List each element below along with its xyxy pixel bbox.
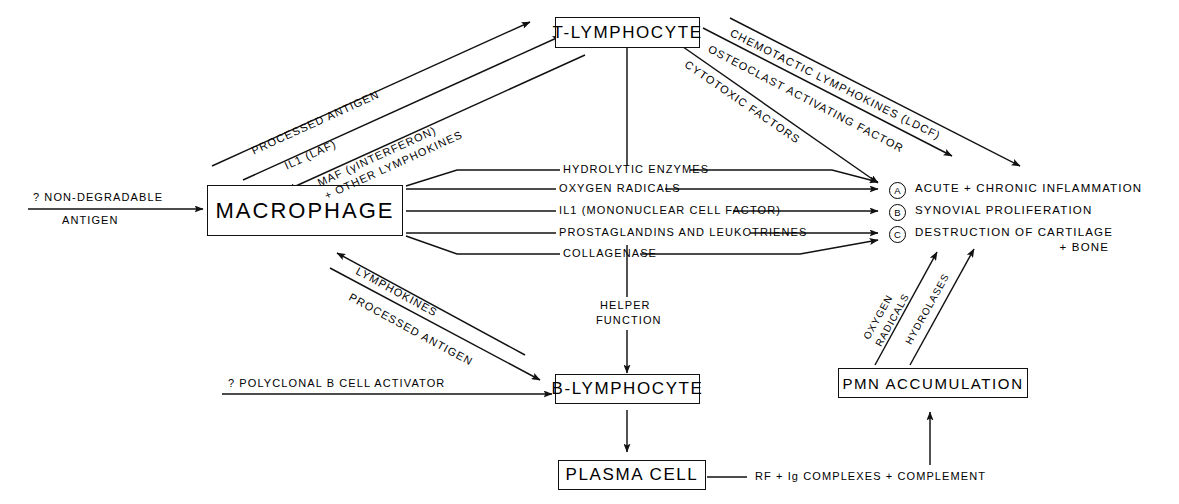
arrow-collagenase-right	[640, 240, 878, 254]
node-t-lymphocyte[interactable]: T-LYMPHOCYTE	[555, 17, 700, 48]
input-non-degradable-antigen-line2: ANTIGEN	[62, 214, 119, 226]
node-macrophage-label: MACROPHAGE	[216, 198, 395, 224]
node-plasma-cell[interactable]: PLASMA CELL	[558, 460, 706, 490]
outcome-c[interactable]: C DESTRUCTION OF CARTILAGE + BONE	[889, 225, 1113, 255]
label-il1-mononuclear-cell-factor: IL1 (MONONUCLEAR CELL FACTOR)	[559, 204, 781, 216]
node-t-lymphocyte-label: T-LYMPHOCYTE	[552, 23, 702, 43]
arrow-osteoclast-activating-factor	[703, 28, 952, 156]
input-non-degradable-antigen-line1: ? NON-DEGRADABLE	[33, 191, 163, 203]
outcome-c-label: DESTRUCTION OF CARTILAGE + BONE	[915, 225, 1113, 255]
outcome-c-label-main: DESTRUCTION OF CARTILAGE	[915, 226, 1113, 238]
arrow-hydrolases-pmn	[910, 249, 974, 365]
immunopathogenesis-diagram: MACROPHAGE T-LYMPHOCYTE B-LYMPHOCYTE PLA…	[0, 0, 1179, 504]
node-plasma-cell-label: PLASMA CELL	[566, 465, 699, 485]
label-collagenase: COLLAGENASE	[563, 247, 657, 259]
node-pmn-accumulation[interactable]: PMN ACCUMULATION	[838, 368, 1028, 398]
input-polyclonal-b-cell-activator: ? POLYCLONAL B CELL ACTIVATOR	[228, 377, 445, 389]
line-hydrolytic-enzymes-left	[406, 170, 560, 186]
label-hydrolytic-enzymes: HYDROLYTIC ENZYMES	[563, 163, 709, 175]
outcome-b-marker: B	[889, 204, 906, 221]
outcome-c-label-sub: + BONE	[915, 240, 1113, 255]
arrow-chemotactic-lymphokines	[730, 18, 1020, 166]
label-helper-function-line2: FUNCTION	[596, 314, 662, 326]
outcome-a[interactable]: A ACUTE + CHRONIC INFLAMMATION	[889, 181, 1142, 199]
label-rf-ig-complexes-complement: RF + Ig COMPLEXES + COMPLEMENT	[755, 470, 986, 482]
node-b-lymphocyte[interactable]: B-LYMPHOCYTE	[555, 374, 700, 404]
label-oxygen-radicals: OXYGEN RADICALS	[559, 182, 681, 194]
outcome-b[interactable]: B SYNOVIAL PROLIFERATION	[889, 203, 1092, 221]
node-macrophage[interactable]: MACROPHAGE	[207, 185, 403, 236]
label-prostaglandins-and-leukotrienes: PROSTAGLANDINS AND LEUKOTRIENES	[559, 226, 807, 238]
outcome-b-label: SYNOVIAL PROLIFERATION	[915, 203, 1092, 218]
label-helper-function-line1: HELPER	[600, 299, 651, 311]
node-b-lymphocyte-label: B-LYMPHOCYTE	[551, 379, 703, 399]
outcome-a-label: ACUTE + CHRONIC INFLAMMATION	[915, 181, 1142, 196]
outcome-a-marker: A	[889, 182, 906, 199]
arrow-hydrolytic-enzymes-right	[690, 170, 878, 182]
arrow-processed-antigen-to-b	[330, 268, 540, 380]
outcome-c-marker: C	[889, 226, 906, 243]
node-pmn-accumulation-label: PMN ACCUMULATION	[842, 375, 1023, 392]
line-collagenase-left	[406, 236, 560, 254]
